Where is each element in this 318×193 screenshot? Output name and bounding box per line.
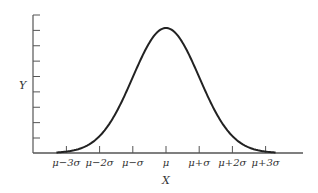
- x-tick-label: μ−2σ: [86, 157, 115, 168]
- normal-distribution-chart: μ−3σμ−2σμ−σμμ+σμ+2σμ+3σ Y X: [0, 0, 318, 193]
- x-tick-label: μ−3σ: [52, 157, 81, 168]
- y-axis-label: Y: [19, 79, 28, 92]
- x-tick-label: μ+2σ: [218, 157, 247, 168]
- x-tick-label: μ: [163, 157, 170, 168]
- y-axis: [33, 15, 40, 153]
- x-tick-label: μ+σ: [188, 157, 211, 168]
- normal-curve: [56, 28, 275, 152]
- x-tick-label: μ+3σ: [252, 157, 281, 168]
- x-tick-labels: μ−3σμ−2σμ−σμμ+σμ+2σμ+3σ: [52, 157, 280, 168]
- x-axis-label: X: [161, 174, 171, 187]
- x-tick-label: μ−σ: [122, 157, 145, 168]
